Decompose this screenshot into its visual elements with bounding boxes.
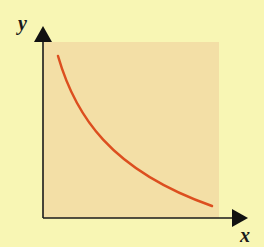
plot-area bbox=[43, 42, 219, 218]
y-axis-label: y bbox=[18, 12, 27, 35]
x-axis-label: x bbox=[240, 224, 250, 247]
diagram-canvas bbox=[0, 0, 264, 247]
y-axis-arrow-icon bbox=[34, 26, 52, 42]
